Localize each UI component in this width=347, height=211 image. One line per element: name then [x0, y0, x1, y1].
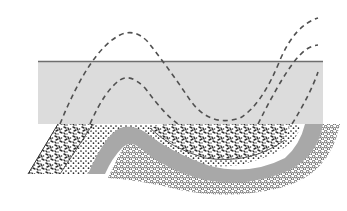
underlying-beds [28, 124, 340, 195]
diagram-canvas [0, 0, 347, 211]
overlying-layer [38, 61, 323, 124]
overlying-layer-group [38, 61, 323, 124]
geology-diagram: Angular unconformity with eroded fold [0, 0, 347, 211]
